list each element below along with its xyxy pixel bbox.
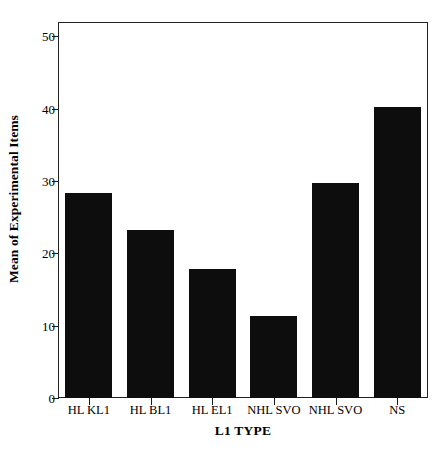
y-axis-title-text: Mean of Experimental Items bbox=[6, 115, 22, 283]
bar bbox=[374, 107, 421, 398]
y-axis-tick-labels: 01020304050 bbox=[27, 0, 55, 451]
x-axis-title: L1 TYPE bbox=[58, 423, 428, 439]
x-axis-tick-label: HL BL1 bbox=[130, 404, 172, 417]
x-axis-tick-label: NHL SVO bbox=[247, 404, 300, 417]
y-axis-title: Mean of Experimental Items bbox=[0, 0, 28, 398]
bar bbox=[127, 230, 174, 398]
bar bbox=[65, 193, 112, 398]
bar bbox=[312, 183, 359, 398]
bar bbox=[250, 316, 297, 398]
bar bbox=[189, 269, 236, 398]
x-axis-tick-label: NHL SVO bbox=[309, 404, 362, 417]
bars-layer bbox=[58, 22, 428, 398]
x-axis-tick-label: HL KL1 bbox=[68, 404, 110, 417]
x-axis-tick-label: HL EL1 bbox=[192, 404, 233, 417]
x-axis-tick-labels: HL KL1HL BL1HL EL1NHL SVONHL SVONS bbox=[58, 404, 428, 422]
x-axis-tick-label: NS bbox=[389, 404, 405, 417]
bar-chart: Mean of Experimental Items 01020304050 H… bbox=[0, 0, 440, 451]
